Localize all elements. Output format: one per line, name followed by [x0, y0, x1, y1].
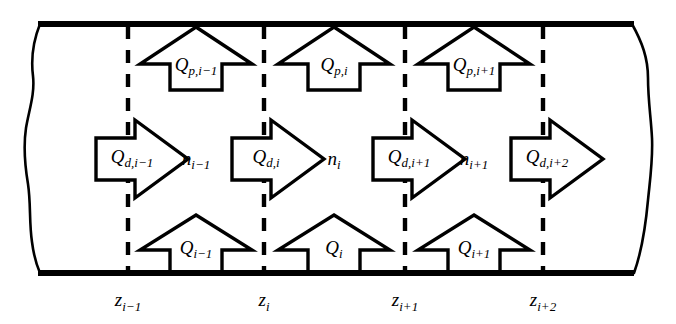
perforation-inflow-arrows	[140, 27, 530, 90]
figure-canvas: Qp,i−1 Qp,i Qp,i+1 Qd,i−1 Qd,i Qd,i+1 Qd…	[0, 0, 676, 324]
node-label-3: zi+2	[529, 289, 557, 314]
wellbore-schematic-svg: Qp,i−1 Qp,i Qp,i+1 Qd,i−1 Qd,i Qd,i+1 Qd…	[0, 0, 676, 324]
left-break-line	[25, 24, 40, 273]
node-label-0: zi−1	[114, 289, 141, 314]
segment-label-1: ni	[327, 148, 341, 172]
node-labels: zi−1 zi zi+1 zi+2	[114, 289, 557, 314]
perforation-arrow-0	[140, 27, 252, 90]
segment-label-0: ni−1	[182, 148, 210, 172]
node-label-2: zi+1	[391, 289, 418, 314]
right-break-line	[632, 24, 652, 273]
node-label-1: zi	[257, 289, 269, 314]
reservoir-arrow-0	[140, 215, 252, 272]
segment-label-2: ni+1	[460, 148, 488, 172]
reservoir-arrow-2	[418, 215, 530, 272]
perforation-arrow-2	[418, 27, 530, 90]
